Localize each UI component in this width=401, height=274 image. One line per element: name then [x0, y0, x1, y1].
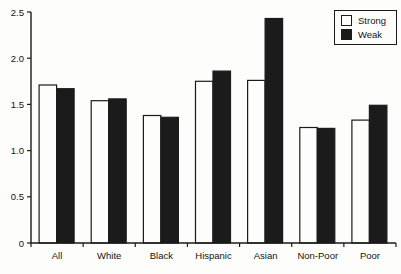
bar-strong-hispanic	[196, 81, 214, 243]
bar-weak-white	[109, 99, 127, 243]
y-tick-label: 2.0	[11, 53, 24, 64]
x-category-label: Black	[150, 250, 173, 261]
bar-strong-non-poor	[300, 128, 318, 244]
bar-weak-all	[57, 89, 75, 243]
bar-weak-asian	[265, 19, 283, 244]
legend-item-weak: Weak	[341, 29, 392, 40]
bar-weak-black	[161, 117, 179, 243]
bar-strong-all	[39, 85, 57, 243]
bar-strong-white	[91, 101, 109, 243]
x-category-label: Non-Poor	[297, 250, 338, 261]
bar-weak-poor	[369, 105, 387, 243]
y-tick-label: 1.5	[11, 99, 24, 110]
y-tick-label: 1.0	[11, 145, 24, 156]
bar-chart-figure: 00.51.01.52.02.5AllWhiteBlackHispanicAsi…	[0, 0, 401, 274]
bar-strong-asian	[248, 80, 266, 243]
y-tick-label: 0	[19, 238, 24, 249]
legend-swatch-weak	[341, 29, 352, 40]
legend-label-strong: Strong	[358, 15, 386, 26]
x-category-label: Hispanic	[195, 250, 232, 261]
bar-weak-hispanic	[213, 71, 231, 243]
legend-label-weak: Weak	[358, 29, 382, 40]
bar-weak-non-poor	[317, 128, 335, 243]
y-tick-label: 2.5	[11, 7, 24, 18]
x-category-label: White	[97, 250, 121, 261]
legend-swatch-strong	[341, 15, 352, 26]
legend-item-strong: Strong	[341, 15, 392, 26]
legend: Strong Weak	[334, 10, 397, 45]
bar-strong-black	[143, 116, 161, 244]
x-category-label: Poor	[360, 250, 380, 261]
y-tick-label: 0.5	[11, 191, 24, 202]
x-category-label: All	[52, 250, 63, 261]
bar-strong-poor	[352, 120, 370, 243]
x-category-label: Asian	[254, 250, 278, 261]
